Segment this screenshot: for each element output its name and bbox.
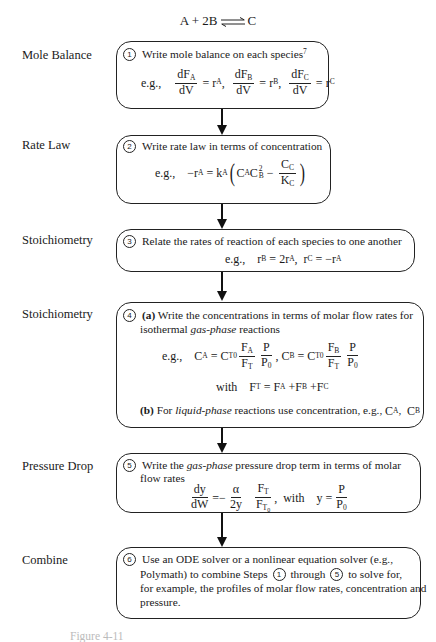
arrow-head-1-icon	[217, 125, 227, 135]
step-1-box: 1Write mole balance on each species7 e.g…	[116, 41, 329, 109]
label-pressure-drop: Pressure Drop	[22, 459, 93, 474]
step-number-6-icon: 6	[123, 553, 136, 566]
step-4-part-a-line2: isothermal gas-phase reactions	[140, 323, 280, 336]
flow-arrow-2	[221, 204, 223, 220]
label-combine: Combine	[22, 553, 68, 568]
step-2-box: 2Write rate law in terms of concentratio…	[116, 135, 331, 204]
figure-caption: Figure 4-11	[70, 630, 124, 642]
flow-arrow-5	[221, 513, 223, 538]
step-number-2-icon: 2	[123, 140, 136, 153]
pressure-drop-equation: dydW =− α2y FTFT0 , with y = PP0	[187, 482, 351, 514]
label-stoichiometry-2: Stoichiometry	[22, 307, 93, 322]
step-number-3-icon: 3	[123, 235, 136, 248]
step-6-line2: Polymath) to combine Steps 1 through 5 t…	[140, 568, 402, 581]
step-2-heading: 2Write rate law in terms of concentratio…	[123, 140, 322, 153]
step-4-part-b: (b) For liquid-phase reactions use conce…	[140, 404, 420, 418]
step-ref-5-icon: 5	[330, 568, 343, 581]
step-5-heading-line2: flow rates	[140, 472, 185, 485]
step-5-box: 5Write the gas-phase pressure drop term …	[116, 453, 421, 513]
step-6-line4: pressure.	[140, 596, 180, 609]
step-number-5-icon: 5	[123, 459, 136, 472]
step-1-heading: 1Write mole balance on each species7	[123, 48, 307, 61]
arrow-head-5-icon	[217, 537, 227, 547]
flow-arrow-4	[221, 428, 223, 444]
stoichiometry-rate-equations: e.g., rB = 2rA, rC = −rA	[225, 252, 342, 266]
product: C	[248, 13, 257, 28]
mole-balance-equations: e.g., dFAdV = rA, dFBdV = rB, dFCdV = rC	[141, 68, 335, 97]
gas-phase-concentration-equations: e.g., CA = CT0 FAFT PP0, CB = CT0 FBFT P…	[162, 341, 362, 371]
reaction-equation: A + 2BC	[0, 13, 436, 29]
reversible-arrow-icon	[220, 17, 246, 27]
arrow-head-2-icon	[217, 219, 227, 229]
rate-law-equation: e.g., −rA = kA ( CA C2B − CCKC )	[155, 158, 307, 188]
step-3-box: 3Relate the rates of reaction of each sp…	[116, 229, 415, 272]
label-mole-balance: Mole Balance	[22, 48, 92, 63]
step-6-box: 6Use an ODE solver or a nonlinear equati…	[116, 547, 421, 619]
total-flow-equation: with FT = FA + FB + FC	[216, 380, 328, 394]
step-4-part-a-line1: 4(a) Write the concentrations in terms o…	[123, 309, 413, 322]
arrow-head-4-icon	[217, 443, 227, 453]
reactants: A + 2B	[180, 13, 218, 28]
arrow-head-3-icon	[217, 291, 227, 301]
step-number-1-icon: 1	[123, 48, 136, 61]
flow-arrow-1	[221, 109, 223, 126]
step-4-box: 4(a) Write the concentrations in terms o…	[116, 302, 424, 428]
label-rate-law: Rate Law	[22, 138, 70, 153]
step-3-heading: 3Relate the rates of reaction of each sp…	[123, 235, 402, 248]
flow-arrow-3	[221, 272, 223, 292]
step-number-4-icon: 4	[123, 309, 136, 322]
step-5-heading: 5Write the gas-phase pressure drop term …	[123, 459, 401, 472]
step-6-line3: for example, the profiles of molar flow …	[140, 582, 426, 595]
label-stoichiometry-1: Stoichiometry	[22, 233, 93, 248]
step-6-line1: 6Use an ODE solver or a nonlinear equati…	[123, 553, 393, 566]
step-ref-1-icon: 1	[273, 568, 286, 581]
